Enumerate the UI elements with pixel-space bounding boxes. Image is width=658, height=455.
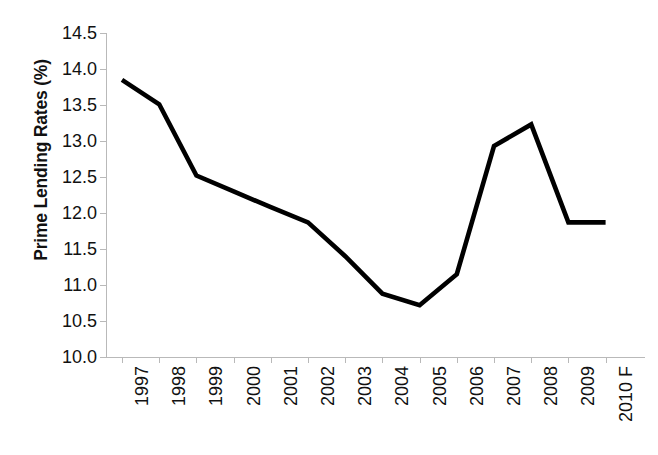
line-series-prime-lending-rates [106, 20, 645, 357]
y-axis-tick-mark [100, 285, 106, 286]
y-axis-tick-label: 14.5 [33, 24, 97, 42]
x-axis-tick-label: 1998 [168, 366, 190, 454]
x-axis-tick-label: 2010 F [615, 366, 637, 454]
prime-lending-rates-chart: Prime Lending Rates (%) 10.010.511.011.5… [0, 0, 658, 455]
y-axis-tick-labels: 10.010.511.011.512.012.513.013.514.014.5 [27, 0, 97, 455]
x-axis-tick-mark [308, 357, 309, 363]
x-axis-tick-mark [382, 357, 383, 363]
x-axis-tick-label: 2008 [540, 366, 562, 454]
y-axis-tick-mark [100, 105, 106, 106]
x-axis-tick-mark [568, 357, 569, 363]
x-axis-tick-mark [234, 357, 235, 363]
y-axis-tick-label: 14.0 [33, 60, 97, 78]
y-axis-tick-label: 12.0 [33, 204, 97, 222]
y-axis-tick-mark [100, 213, 106, 214]
y-axis-tick-mark [100, 249, 106, 250]
y-axis-tick-mark [100, 141, 106, 142]
x-axis-tick-mark [494, 357, 495, 363]
plot-area [106, 20, 645, 357]
y-axis-tick-mark [100, 177, 106, 178]
x-axis-line [106, 357, 645, 358]
y-axis-tick-label: 10.0 [33, 348, 97, 366]
y-axis-tick-mark [100, 357, 106, 358]
x-axis-tick-mark [345, 357, 346, 363]
x-axis-tick-mark [457, 357, 458, 363]
y-axis-tick-label: 11.5 [33, 240, 97, 258]
x-axis-tick-label: 2006 [466, 366, 488, 454]
y-axis-tick-label: 11.0 [33, 276, 97, 294]
x-axis-tick-label: 1999 [205, 366, 227, 454]
y-axis-tick-label: 10.5 [33, 312, 97, 330]
x-axis-tick-label: 2000 [243, 366, 265, 454]
x-axis-tick-label: 2003 [354, 366, 376, 454]
y-axis-tick-mark [100, 33, 106, 34]
x-axis-tick-mark [420, 357, 421, 363]
x-axis-tick-label: 2005 [429, 366, 451, 454]
y-axis-tick-label: 12.5 [33, 168, 97, 186]
x-axis-tick-mark [271, 357, 272, 363]
x-axis-tick-label: 1997 [131, 366, 153, 454]
x-axis-tick-mark [159, 357, 160, 363]
x-axis-tick-mark [122, 357, 123, 363]
y-axis-tick-label: 13.0 [33, 132, 97, 150]
x-axis-tick-label: 2007 [503, 366, 525, 454]
x-axis-tick-mark [531, 357, 532, 363]
x-axis-tick-label: 2001 [280, 366, 302, 454]
y-axis-tick-label: 13.5 [33, 96, 97, 114]
x-axis-tick-labels: 1997199819992000200120022003200420052006… [106, 366, 645, 455]
x-axis-tick-label: 2002 [317, 366, 339, 454]
x-axis-tick-mark [196, 357, 197, 363]
x-axis-tick-label: 2009 [577, 366, 599, 454]
x-axis-tick-mark [606, 357, 607, 363]
y-axis-tick-mark [100, 69, 106, 70]
y-axis-tick-mark [100, 321, 106, 322]
x-axis-tick-label: 2004 [391, 366, 413, 454]
